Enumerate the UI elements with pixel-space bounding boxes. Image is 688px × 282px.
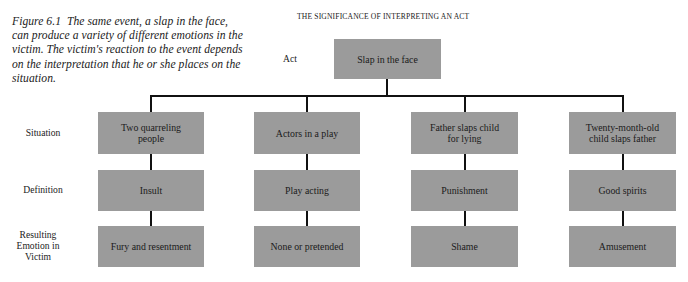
col4-link-b	[622, 211, 624, 226]
act-box: Slap in the face	[334, 39, 441, 79]
emotion-box-1: Fury and resentment	[98, 226, 204, 267]
situation-box-4: Twenty-month-old child slaps father	[569, 112, 676, 154]
col4-drop	[622, 95, 624, 113]
situation-text: Twenty-month-old child slaps father	[581, 122, 665, 144]
row-label-act: Act	[270, 53, 310, 64]
emotion-text: None or pretended	[271, 241, 344, 252]
col3-link-b	[464, 211, 466, 226]
col2-link-b	[306, 211, 308, 226]
definition-box-1: Insult	[98, 170, 204, 211]
horizontal-connector	[150, 95, 624, 97]
situation-box-3: Father slaps child for lying	[411, 112, 518, 154]
col2-drop	[306, 95, 308, 113]
situation-text: Two quarreling people	[115, 122, 187, 144]
emotion-box-2: None or pretended	[254, 226, 360, 267]
col3-link-a	[464, 154, 466, 170]
diagram-title: THE SIGNIFICANCE OF INTERPRETING AN ACT	[297, 12, 469, 21]
definition-text: Insult	[140, 185, 162, 196]
col2-link-a	[306, 154, 308, 170]
emotion-text: Shame	[451, 241, 478, 252]
row-label-situation: Situation	[8, 127, 78, 138]
definition-text: Play acting	[285, 185, 329, 196]
col4-link-a	[622, 154, 624, 170]
figure-caption: Figure 6.1 The same event, a slap in the…	[12, 15, 244, 86]
definition-text: Punishment	[441, 185, 487, 196]
col1-link-b	[150, 211, 152, 226]
definition-box-3: Punishment	[411, 170, 518, 211]
definition-text: Good spirits	[598, 185, 646, 196]
row-label-emotion: Resulting Emotion in Victim	[14, 229, 62, 262]
emotion-text: Amusement	[599, 241, 646, 252]
figure-label: Figure 6.1	[12, 15, 61, 28]
situation-box-2: Actors in a play	[254, 112, 360, 154]
act-label: Slap in the face	[357, 54, 418, 65]
situation-text: Father slaps child for lying	[427, 122, 503, 144]
emotion-box-4: Amusement	[569, 226, 676, 267]
emotion-box-3: Shame	[411, 226, 518, 267]
definition-box-4: Good spirits	[569, 170, 676, 211]
col1-link-a	[150, 154, 152, 170]
col1-drop	[150, 95, 152, 113]
row-label-definition: Definition	[8, 184, 78, 195]
situation-box-1: Two quarreling people	[98, 112, 204, 154]
definition-box-2: Play acting	[254, 170, 360, 211]
emotion-text: Fury and resentment	[111, 241, 192, 252]
situation-text: Actors in a play	[276, 128, 338, 139]
col3-drop	[464, 95, 466, 113]
